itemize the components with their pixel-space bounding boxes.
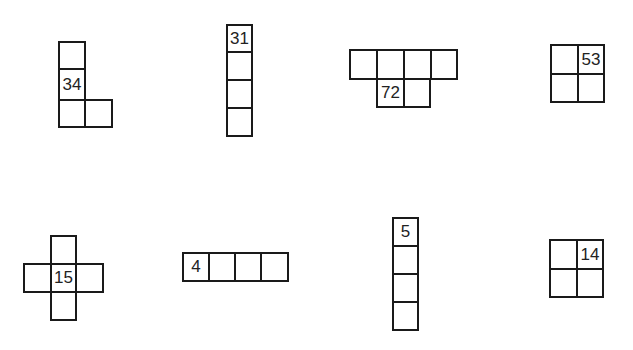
- net-cell: [226, 107, 253, 137]
- labeled-cell: 31: [226, 24, 253, 53]
- cell-number: 34: [63, 75, 82, 95]
- net-cell: [208, 252, 236, 282]
- net-cell: [84, 99, 113, 128]
- net-cell: [430, 49, 458, 80]
- labeled-cell: 53: [577, 44, 605, 75]
- labeled-cell: 14: [576, 239, 604, 270]
- net-cell: [549, 268, 578, 298]
- labeled-cell: 4: [182, 252, 210, 282]
- net-cell: [226, 79, 253, 109]
- net-cell: [550, 44, 579, 75]
- labeled-cell: 34: [58, 68, 86, 101]
- net-cell: [349, 49, 378, 80]
- net-cell: [577, 73, 605, 103]
- net-cell: [226, 51, 253, 81]
- cell-number: 53: [582, 50, 601, 70]
- labeled-cell: 72: [376, 78, 405, 108]
- net-cell: [23, 263, 52, 293]
- cell-number: 72: [381, 83, 400, 103]
- net-cell: [50, 291, 77, 321]
- cell-number: 5: [401, 222, 410, 242]
- net-cell: [75, 263, 104, 293]
- net-cell: [376, 49, 405, 80]
- net-cell: [392, 245, 419, 275]
- cell-number: 15: [54, 268, 73, 288]
- cell-number: 4: [191, 257, 200, 277]
- net-cell: [550, 73, 579, 103]
- labeled-cell: 5: [392, 217, 419, 247]
- labeled-cell: 15: [50, 263, 77, 293]
- net-cell: [392, 301, 419, 331]
- net-cell: [58, 99, 86, 128]
- net-cell: [576, 268, 604, 298]
- cell-number: 31: [230, 29, 249, 49]
- net-cell: [403, 49, 432, 80]
- net-cell: [392, 273, 419, 303]
- net-cell: [50, 235, 77, 265]
- net-cell: [403, 78, 431, 108]
- net-cell: [58, 41, 86, 70]
- net-cell: [260, 252, 289, 282]
- net-cell: [549, 239, 578, 270]
- cell-number: 14: [581, 245, 600, 265]
- net-cell: [234, 252, 262, 282]
